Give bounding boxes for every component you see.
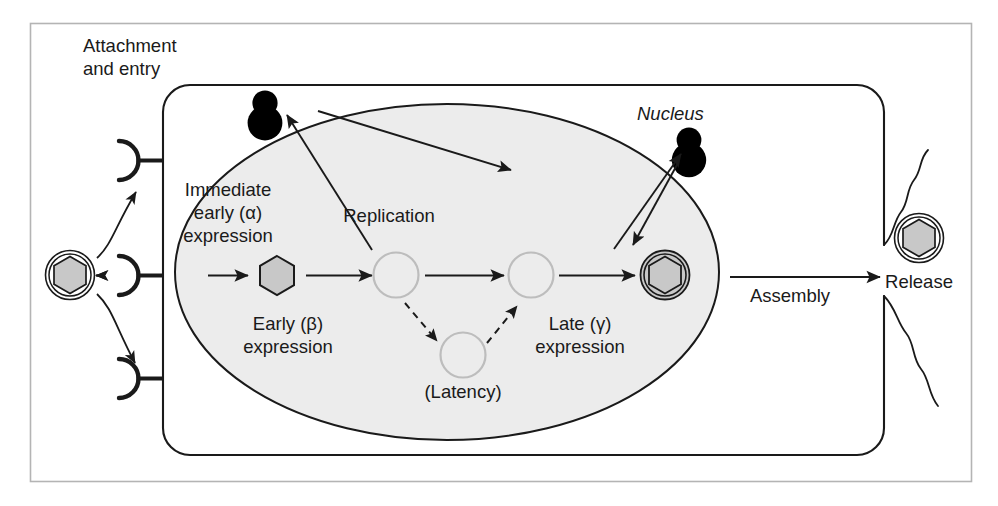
naked-capsid-hexagon (260, 256, 294, 295)
label-immediate-early-line2: early (α) (194, 202, 262, 223)
label-late-line2: expression (535, 336, 624, 357)
virion-released (895, 214, 944, 263)
label-latency: (Latency) (424, 381, 501, 402)
label-nucleus: Nucleus (637, 103, 704, 124)
label-late-line1: Late (γ) (549, 313, 612, 334)
label-release: Release (885, 271, 953, 292)
label-early-line2: expression (243, 336, 332, 357)
label-immediate-early-line3: expression (183, 225, 272, 246)
label-immediate-early-line1: Immediate (185, 179, 271, 200)
virion-assembled (641, 251, 690, 300)
label-early-line1: Early (β) (253, 313, 323, 334)
figure-root: Attachment and entry Immediate early (α)… (0, 0, 998, 506)
virion-external (46, 251, 95, 300)
label-attachment-line1: Attachment (83, 35, 177, 56)
label-replication: Replication (343, 205, 435, 226)
label-attachment-line2: and entry (83, 58, 161, 79)
replication-cycle-diagram: Attachment and entry Immediate early (α)… (0, 0, 998, 506)
label-assembly: Assembly (750, 285, 831, 306)
